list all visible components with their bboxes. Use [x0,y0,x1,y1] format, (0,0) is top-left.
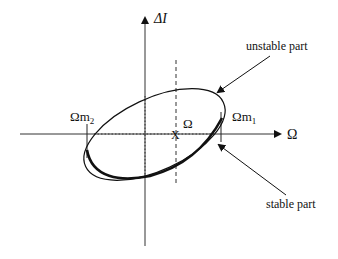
center-omega-label: Ω [183,116,193,131]
stable-part-label: stable part [266,197,316,211]
x-axis-label: Ω [287,127,297,142]
omega-m2-label: Ωm2 [70,109,94,126]
unstable-arrow [218,56,270,92]
diagram-canvas: ΔI Ω Ωm2 Ωm1 X Ω unstable part stable pa… [0,0,338,259]
stable-arrow [219,145,286,195]
center-marker: X [171,128,180,142]
stable-arc [87,118,222,178]
omega-m1-label: Ωm1 [232,109,256,126]
y-axis-label: ΔI [153,11,168,26]
unstable-part-label: unstable part [246,39,308,53]
